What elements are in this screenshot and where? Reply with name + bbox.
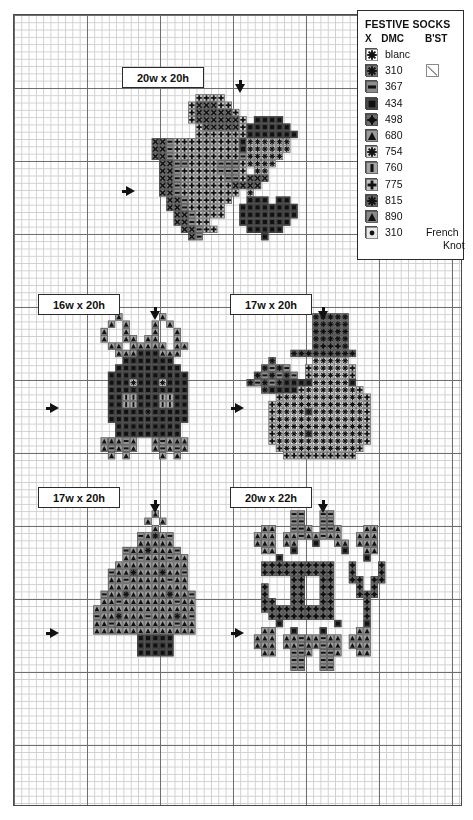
legend-symbol-775-plus-icon (365, 178, 377, 190)
legend-dmc-code: 890 (385, 210, 426, 222)
legend-symbol-754-asterisk-icon (365, 145, 377, 157)
size-label-tree: 17w x 20h (38, 487, 120, 508)
legend-symbol-890-triangle-dark-icon (365, 210, 377, 222)
legend-row-list: blanc310367434498680754760775815890310Fr… (358, 46, 463, 251)
legend-row: 760 (365, 159, 463, 175)
legend-symbol-815-starsmall-icon (365, 194, 377, 206)
legend-symbol-760-bar-icon (365, 161, 377, 173)
size-label-mitten: 20w x 20h (122, 67, 204, 88)
floss-legend: FESTIVE SOCKS X DMC B'ST blanc3103674344… (357, 10, 464, 260)
legend-symbol-498-diamond-icon (365, 113, 377, 125)
size-label-joy: 20w x 22h (230, 487, 312, 508)
legend-dmc-code: blanc (385, 48, 426, 60)
legend-row: 310 (365, 62, 463, 78)
legend-dmc-code: 815 (385, 194, 426, 206)
legend-row: 498 (365, 111, 463, 127)
legend-header-dmc: DMC (381, 33, 425, 44)
center-arrow-down-snowman-icon (318, 311, 328, 320)
legend-row: 754 (365, 143, 463, 159)
legend-backstitch-cell (426, 64, 463, 77)
legend-backstitch-cell: French (426, 226, 463, 238)
legend-title: FESTIVE SOCKS (365, 18, 463, 30)
legend-note-line2: Knot (443, 239, 463, 251)
cross-stitch-pattern-page: 20w x 20h16w x 20h17w x 20h17w x 20h20w … (0, 0, 473, 820)
legend-row: 890 (365, 208, 463, 224)
legend-row: 815 (365, 192, 463, 208)
legend-symbol-434-square-icon (365, 97, 377, 109)
legend-symbol-310-frenchknot-icon (365, 226, 377, 238)
legend-dmc-code: 754 (385, 145, 426, 157)
legend-row: 434 (365, 95, 463, 111)
center-arrow-down-tree-icon (150, 504, 160, 513)
center-arrow-down-joy-icon (318, 504, 328, 513)
legend-dmc-code: 775 (385, 178, 426, 190)
legend-row: 310French (365, 224, 463, 240)
center-arrow-right-joy-icon (235, 628, 244, 638)
legend-header-backstitch: B'ST (425, 33, 463, 44)
legend-row: 680 (365, 127, 463, 143)
legend-header-row: X DMC B'ST (365, 33, 463, 44)
center-arrow-right-tree-icon (50, 628, 59, 638)
legend-row: blanc (365, 46, 463, 62)
legend-row: 775 (365, 176, 463, 192)
legend-row: 367 (365, 78, 463, 94)
size-label-reindeer: 16w x 20h (38, 294, 120, 315)
legend-header-symbol: X (365, 33, 381, 44)
center-arrow-right-reindeer-icon (50, 403, 59, 413)
legend-dmc-code: 367 (385, 80, 426, 92)
legend-dmc-code: 434 (385, 97, 426, 109)
legend-dmc-code: 680 (385, 129, 426, 141)
legend-dmc-code: 310 (385, 226, 426, 238)
legend-dmc-code: 310 (385, 64, 426, 76)
legend-symbol-blanc-star-box-icon (365, 48, 377, 60)
legend-symbol-680-triangle-icon (365, 129, 377, 141)
legend-dmc-code: 760 (385, 161, 426, 173)
legend-symbol-367-dash-icon (365, 80, 377, 92)
center-arrow-right-mitten-icon (126, 186, 135, 196)
center-arrow-right-snowman-icon (235, 403, 244, 413)
legend-symbol-310-star-icon (365, 64, 377, 76)
center-arrow-down-reindeer-icon (150, 311, 160, 320)
size-label-snowman: 17w x 20h (230, 294, 312, 315)
center-arrow-down-mitten-icon (235, 84, 245, 93)
backstitch-swatch-icon (426, 64, 439, 77)
legend-dmc-code: 498 (385, 113, 426, 125)
legend-note: French (426, 226, 459, 238)
